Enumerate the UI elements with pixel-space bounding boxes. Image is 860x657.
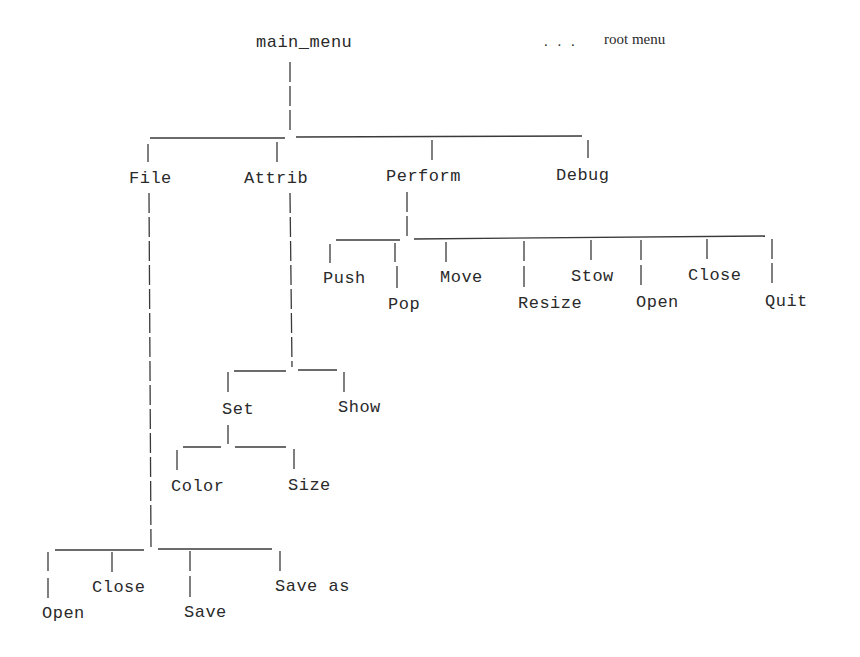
node-perform-move: Move — [440, 269, 483, 286]
node-file-save-as: Save as — [275, 578, 350, 595]
node-file-save: Save — [184, 604, 227, 621]
node-main-menu: main_menu — [256, 34, 352, 51]
node-attrib-show: Show — [338, 399, 381, 416]
node-attrib-set: Set — [222, 401, 254, 418]
node-perform-pop: Pop — [388, 296, 420, 313]
menu-tree-diagram: main_menu . . . root menu File Attrib Pe… — [0, 0, 860, 657]
node-perform-close: Close — [688, 267, 742, 284]
annotation-dots: . . . — [544, 34, 578, 49]
node-debug: Debug — [556, 167, 610, 184]
annotation-root-menu: root menu — [604, 32, 665, 47]
node-perform-quit: Quit — [765, 293, 808, 310]
node-perform: Perform — [386, 168, 461, 185]
node-set-color: Color — [171, 478, 225, 495]
node-perform-resize: Resize — [518, 295, 582, 312]
node-perform-stow: Stow — [571, 268, 614, 285]
node-file-close: Close — [92, 579, 146, 596]
node-perform-open: Open — [636, 294, 679, 311]
tree-connectors — [0, 0, 860, 657]
node-attrib: Attrib — [244, 170, 308, 187]
node-set-size: Size — [288, 477, 331, 494]
node-file-open: Open — [42, 605, 85, 622]
node-perform-push: Push — [323, 270, 366, 287]
node-file: File — [129, 170, 172, 187]
